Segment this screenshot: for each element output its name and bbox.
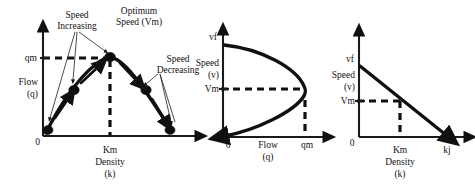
chart1-arrow-falling-1 [120,63,137,81]
chart1-leader-decreasing-a [146,74,158,84]
chart2-vm-label: Vm [205,84,220,94]
chart3-kj-label: kj [443,145,450,155]
chart-speed-flow: vf Speed (v) Vm 0 Flow (q) qm [196,32,325,163]
chart3-density-symbol: (k) [394,169,405,180]
chart1-point-3 [105,52,116,61]
chart2-speed-symbol: (v) [208,70,219,81]
chart-flow-density: qm Flow (q) 0 Km Density (k) Speed Incre… [18,6,199,180]
chart1-arrow-falling-2 [152,99,165,120]
chart1-density-label: Density [95,157,125,167]
chart1-annotation-speed-decreasing-line1: Speed [166,54,189,64]
chart3-density-label: Density [385,157,415,167]
chart2-speed-label: Speed [196,58,219,68]
chart3-speed-symbol: (v) [344,82,355,93]
figure-canvas: qm Flow (q) 0 Km Density (k) Speed Incre… [0,0,475,186]
chart2-flow-label: Flow [258,140,278,150]
chart1-km-label: Km [103,145,118,155]
chart1-point-5 [165,126,175,135]
chart3-vf-label: vf [346,54,355,64]
chart1-annotation-optimum-line2: Speed (Vm) [116,17,162,28]
chart1-density-symbol: (k) [104,169,115,180]
chart1-arrow-rising-1 [55,99,68,118]
chart1-flow-label: Flow [18,77,38,87]
chart1-annotation-speed-increasing-line1: Speed [65,10,88,20]
chart-speed-density: vf Speed (v) Vm 0 Km Density (k) kj [332,34,466,180]
traffic-flow-figure: qm Flow (q) 0 Km Density (k) Speed Incre… [0,0,475,186]
chart1-origin-label: 0 [35,137,40,147]
chart1-leader-increasing-c [79,32,105,51]
chart1-annotation-optimum-line1: Optimum [121,6,158,16]
chart1-point-1 [43,126,53,135]
chart3-origin-label: 0 [350,138,355,148]
chart1-qm-label: qm [25,53,38,63]
chart1-annotation-speed-increasing-line2: Increasing [57,21,97,31]
chart2-vf-label: vf [209,32,218,42]
chart2-flow-symbol: (q) [262,152,273,163]
chart1-point-4 [141,85,151,94]
chart1-point-2 [69,85,79,94]
chart1-leader-increasing-b [73,32,77,80]
chart3-km-label: Km [393,145,408,155]
chart2-qm-label: qm [301,140,314,150]
chart1-flow-symbol: (q) [27,89,38,100]
chart2-origin-label: 0 [226,140,231,150]
chart1-annotation-speed-decreasing-line2: Decreasing [157,65,200,75]
chart3-speed-label: Speed [332,70,355,80]
chart3-vm-label: Vm [341,96,356,106]
